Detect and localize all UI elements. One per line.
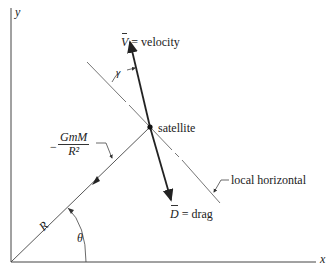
- local-horizontal-leader: [214, 180, 229, 192]
- gamma-label: γ: [116, 66, 120, 78]
- gamma-arrow: [127, 68, 135, 70]
- local-horizontal-dash: [122, 98, 126, 102]
- drag-symbol: D: [170, 207, 179, 221]
- x-axis-label: x: [320, 253, 325, 265]
- velocity-symbol: V: [121, 35, 128, 49]
- gravity-force-fraction: GmM R²: [58, 131, 89, 158]
- velocity-vector: [130, 42, 150, 127]
- velocity-text: = velocity: [131, 35, 179, 49]
- local-horizontal-line-end: [182, 160, 220, 203]
- gravity-sign: −: [50, 140, 57, 155]
- gravity-leader-line: [96, 143, 112, 158]
- y-axis-label: y: [15, 6, 20, 18]
- theta-label: θ: [77, 232, 83, 244]
- satellite-label: satellite: [158, 122, 195, 134]
- velocity-label: V = velocity: [121, 36, 180, 48]
- local-horizontal-label: local horizontal: [231, 174, 306, 186]
- gravity-denominator: R²: [58, 145, 89, 158]
- satellite-point: [147, 124, 152, 129]
- gravity-numerator: GmM: [58, 131, 89, 145]
- local-horizontal-dash: [175, 153, 179, 157]
- drag-label: D = drag: [170, 208, 213, 220]
- drag-text: = drag: [182, 207, 213, 221]
